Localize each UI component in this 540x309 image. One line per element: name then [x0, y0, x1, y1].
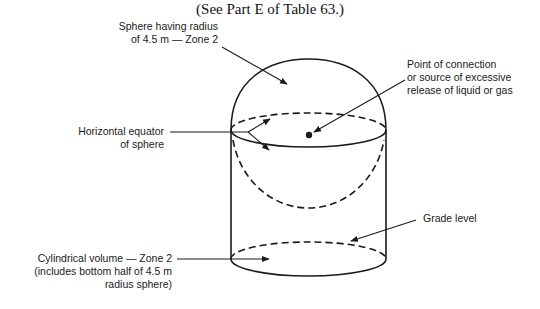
lower-hemisphere-dashed: [233, 140, 384, 208]
equator-label: Horizontal equator of sphere: [78, 125, 164, 151]
source-point-icon: [306, 132, 312, 138]
sphere-leader: [222, 47, 287, 84]
sphere-dome: [231, 59, 386, 130]
point-leader: [314, 80, 405, 132]
equator-leader-back: [248, 119, 270, 132]
sphere-label: Sphere having radius of 4.5 m — Zone 2: [119, 20, 218, 46]
grade-ellipse-back-dashed: [231, 242, 386, 259]
equator-back-dashed: [231, 113, 386, 130]
source-point-label: Point of connection or source of excessi…: [407, 58, 513, 97]
grade-ellipse-front: [231, 259, 386, 276]
grade-leader: [351, 220, 416, 241]
cylinder-label: Cylindrical volume — Zone 2 (includes bo…: [34, 252, 172, 291]
grade-level-label: Grade level: [423, 212, 477, 225]
